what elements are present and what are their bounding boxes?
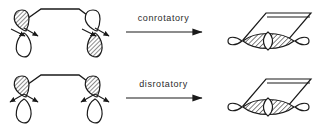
left-p-orbital bbox=[14, 76, 31, 123]
sigma-bond-lobe bbox=[243, 32, 294, 50]
reaction-label-disrotatory: disrotatory bbox=[112, 79, 215, 89]
reaction-arrow-conrotatory: conrotatory bbox=[112, 0, 215, 66]
reaction-arrow-disrotatory: disrotatory bbox=[112, 66, 215, 132]
diene-chain-skeleton bbox=[24, 75, 95, 87]
reaction-label-conrotatory: conrotatory bbox=[112, 13, 215, 23]
diene-chain-skeleton bbox=[24, 9, 95, 21]
electrocyclic-reaction-figure: conrotatory bbox=[0, 0, 323, 132]
reactant-butadiene-disrotatory bbox=[0, 66, 112, 132]
left-p-orbital bbox=[14, 10, 31, 57]
product-cyclobutene-conrotatory bbox=[215, 0, 323, 66]
product-cyclobutene-disrotatory bbox=[215, 66, 323, 132]
right-p-orbital bbox=[85, 76, 102, 123]
right-p-orbital bbox=[85, 10, 102, 57]
reaction-row-conrotatory: conrotatory bbox=[0, 0, 323, 66]
sigma-bond-lobe bbox=[243, 98, 294, 116]
reaction-row-disrotatory: disrotatory bbox=[0, 66, 323, 132]
reactant-butadiene-conrotatory bbox=[0, 0, 112, 66]
